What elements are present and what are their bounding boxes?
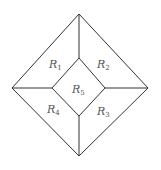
region-label-r4: R4	[46, 103, 60, 117]
region-label-r5: R5	[71, 83, 85, 97]
region-label-r1: R1	[48, 58, 62, 72]
diamond-diagram: R1 R2 R3 R4 R5	[0, 0, 161, 170]
region-label-r3: R3	[96, 105, 110, 119]
region-label-r2: R2	[96, 58, 110, 72]
